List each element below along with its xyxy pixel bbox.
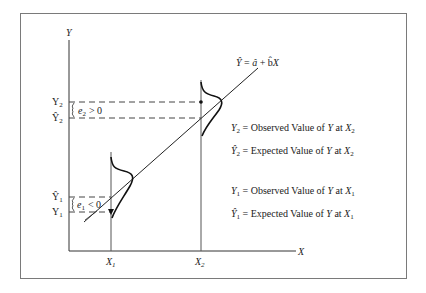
y2-observed-point xyxy=(199,100,203,104)
y1-label: Y1 xyxy=(52,206,63,219)
legend: Y2 = Observed Value of Y at X2 Ŷ2 = Expe… xyxy=(231,122,355,221)
y2-label: Y2 xyxy=(52,96,63,109)
x-axis-label: X xyxy=(297,246,305,257)
e1-brace xyxy=(72,198,74,211)
regression-diagram: Y X X1 X2 Ŷ = â + b̂X Y2 Ŷ2 Ŷ1 Y1 e2> 0 … xyxy=(0,0,426,293)
legend-item: Ŷ2 = Expected Value of Y at X2 xyxy=(231,145,354,158)
y2-hat-label: Ŷ2 xyxy=(52,112,63,125)
regression-equation: Ŷ = â + b̂X xyxy=(236,56,280,68)
x1-distribution-curve xyxy=(111,157,133,218)
e2-brace xyxy=(72,103,74,117)
y-axis-label: Y xyxy=(66,27,73,38)
y1-hat-label: Ŷ1 xyxy=(52,191,63,204)
legend-item: Ŷ1 = Expected Value of Y at X1 xyxy=(231,208,354,221)
legend-item: Y1 = Observed Value of Y at X1 xyxy=(231,185,355,198)
e2-label: e2> 0 xyxy=(78,105,102,118)
legend-item: Y2 = Observed Value of Y at X2 xyxy=(231,122,355,135)
x2-tick-label: X2 xyxy=(194,256,205,269)
x1-tick-label: X1 xyxy=(105,256,116,269)
